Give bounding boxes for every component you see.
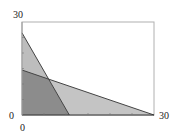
feasible-region-chart: 30 0 0 30 (0, 0, 181, 134)
x-tick-label-max: 30 (159, 110, 169, 121)
regions-layer (22, 33, 154, 115)
y-tick-label-max: 30 (13, 9, 23, 20)
x-tick-label-min: 0 (20, 122, 25, 133)
y-tick-label-min: 0 (9, 110, 14, 121)
